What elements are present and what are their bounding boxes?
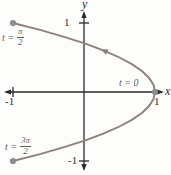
- direction-arrow-icon: [99, 46, 108, 54]
- x-axis-label: x: [165, 85, 170, 99]
- x-axis-arrow-left-icon: [4, 89, 11, 94]
- curve-point-dot: [10, 20, 16, 26]
- y-axis-label: y: [82, 0, 87, 12]
- t-pi-over-2-prefix: t =: [2, 32, 14, 44]
- parametric-curve-figure: y x 1 -1 -1 1 t = 0 t = π 2 t = 3π 2: [0, 0, 171, 175]
- y-tick-label-1: 1: [64, 16, 70, 29]
- y-axis-arrow-down-icon: [81, 164, 86, 171]
- t-zero-label: t = 0: [119, 77, 139, 89]
- 3pi-over-2-fraction: 3π 2: [20, 136, 31, 157]
- fraction-denominator: 2: [20, 147, 31, 157]
- y-axis-arrow-up-icon: [81, 11, 86, 18]
- pi-over-2-fraction: π 2: [17, 27, 24, 48]
- t-pi-over-2-label: t = π 2: [2, 27, 24, 48]
- curve-point-dot: [10, 158, 16, 164]
- t-3pi-over-2-label: t = 3π 2: [5, 136, 31, 157]
- fraction-denominator: 2: [17, 38, 24, 48]
- t-3pi-over-2-prefix: t =: [5, 141, 17, 153]
- y-tick-label-neg1: -1: [68, 154, 77, 167]
- x-tick-label-neg1: -1: [5, 95, 14, 108]
- x-tick-label-1: 1: [154, 95, 160, 108]
